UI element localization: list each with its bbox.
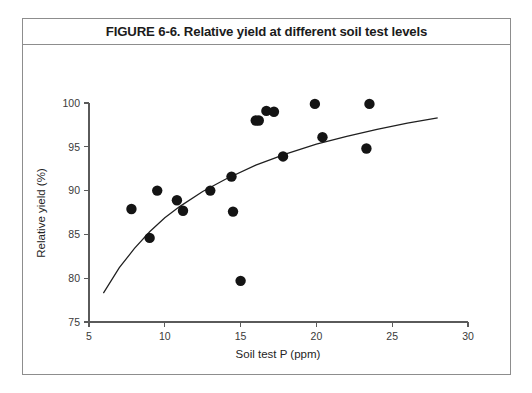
x-axis-title: Soil test P (ppm)	[236, 348, 321, 360]
data-point-marker	[226, 171, 236, 181]
data-point-marker	[269, 107, 279, 117]
figure-title: FIGURE 6-6. Relative yield at different …	[106, 24, 427, 39]
data-point-marker	[178, 206, 188, 216]
y-tick-label: 80	[68, 272, 80, 284]
figure-frame: FIGURE 6-6. Relative yield at different …	[22, 18, 511, 375]
y-tick-label: 100	[62, 97, 80, 109]
data-point-marker	[310, 99, 320, 109]
x-tick-label: 25	[386, 330, 398, 342]
x-tick-label: 30	[462, 330, 474, 342]
y-tick-label: 85	[68, 228, 80, 240]
data-point-marker	[126, 204, 136, 214]
data-point-marker	[228, 206, 238, 216]
y-tick-label: 90	[68, 184, 80, 196]
y-tick-label: 75	[68, 316, 80, 328]
x-tick-label: 10	[159, 330, 171, 342]
x-tick-label: 20	[311, 330, 323, 342]
x-tick-label: 5	[86, 330, 92, 342]
scatter-chart-svg: 7580859095100 51015202530 Soil test P (p…	[23, 45, 510, 375]
data-point-marker	[235, 276, 245, 286]
y-tick-label: 95	[68, 141, 80, 153]
x-tick-label: 15	[235, 330, 247, 342]
figure-title-bar: FIGURE 6-6. Relative yield at different …	[23, 19, 510, 45]
y-axis-title: Relative yield (%)	[35, 168, 47, 258]
data-point-marker	[278, 151, 288, 161]
data-point-marker	[317, 132, 327, 142]
chart-axes	[89, 103, 468, 322]
fit-curve-path	[103, 118, 437, 293]
data-point-marker	[205, 185, 215, 195]
y-axis-ticks: 7580859095100	[62, 97, 89, 328]
data-point-marker	[152, 185, 162, 195]
regression-curve	[103, 118, 437, 293]
data-point-marker	[144, 233, 154, 243]
chart-plot-area: 7580859095100 51015202530 Soil test P (p…	[23, 45, 510, 375]
data-point-marker	[364, 99, 374, 109]
data-point-marker	[172, 195, 182, 205]
x-axis-ticks: 51015202530	[86, 322, 474, 342]
data-point-marker	[361, 143, 371, 153]
data-point-marker	[254, 115, 264, 125]
data-points	[126, 99, 374, 286]
